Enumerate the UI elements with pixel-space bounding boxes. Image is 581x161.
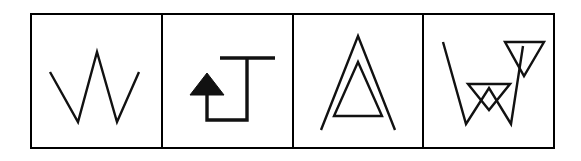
panel-1-group bbox=[32, 15, 161, 147]
panel-2-region bbox=[163, 15, 292, 147]
figure-canvas bbox=[0, 0, 581, 161]
panel-2-group bbox=[163, 15, 292, 147]
panel-4-region bbox=[424, 15, 553, 147]
panel-4-group bbox=[424, 15, 553, 147]
panel-1-region bbox=[32, 15, 161, 147]
panel-3-group bbox=[294, 15, 422, 147]
four-panel-figure-svg bbox=[0, 0, 581, 161]
